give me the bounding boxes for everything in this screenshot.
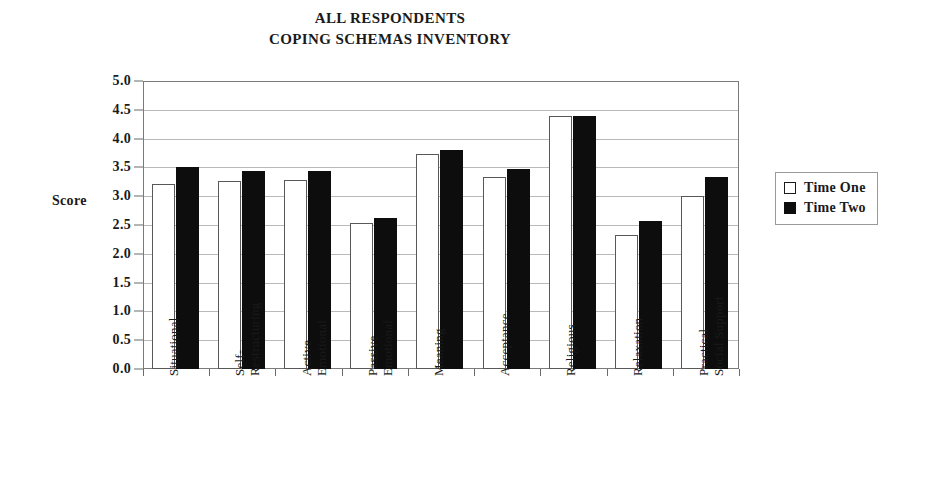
y-axis-tick-label: 2.5 [113,217,131,233]
y-axis-tick-label: 0.5 [113,332,131,348]
x-axis-category-label-line: Social Support [711,296,727,376]
legend-swatch-open-square-icon [784,182,796,194]
y-axis-tick-mark [134,253,143,254]
x-axis-category-label-line: Emotional [314,320,330,376]
x-axis-tick-mark [143,369,144,376]
legend-label-time-one: Time One [804,180,866,196]
y-axis-tick-mark [134,81,143,82]
y-axis-tick-label: 3.5 [113,159,131,175]
y-axis-tick-mark [134,369,143,370]
x-axis-tick-mark [408,369,409,376]
y-axis-tick-labels: 5.04.54.03.53.02.52.01.51.00.50.0 [81,81,143,369]
x-axis-category-label-line: Active [299,340,315,376]
legend-item-time-two[interactable]: Time Two [784,198,866,218]
y-axis-tick-label: 4.5 [113,102,131,118]
x-axis-tick-mark [673,369,674,376]
legend-label-time-two: Time Two [804,200,866,216]
y-axis-tick-label: 4.0 [113,131,131,147]
x-axis-tick-mark [739,369,740,376]
y-axis-tick-mark [134,196,143,197]
x-axis-category-label-line: Passive [365,336,381,376]
y-axis-tick-mark [134,225,143,226]
x-axis-tick-mark [474,369,475,376]
x-axis-category-label-line: Meaning [431,328,447,376]
x-axis-category-label-line: Relaxation [630,318,646,376]
legend-item-time-one[interactable]: Time One [784,178,866,198]
x-axis-tick-mark [209,369,210,376]
y-axis-tick-label: 5.0 [113,73,131,89]
y-axis-tick-label: 2.0 [113,246,131,262]
bar-group [210,82,276,369]
bar-group [409,82,475,369]
bar-time-one[interactable] [218,181,241,369]
y-axis-tick-label: 0.0 [113,361,131,377]
bar-group [276,82,342,369]
x-axis-category-label-line: Situational [166,317,182,376]
y-axis-tick-mark [134,311,143,312]
chart-legend[interactable]: Time One Time Two [775,172,878,225]
bar-group [674,82,740,369]
y-axis-tick-mark [134,340,143,341]
x-axis-category-labels: SituationalSelf-RestructuringActiveEmoti… [143,376,739,488]
y-axis-tick-label: 1.5 [113,275,131,291]
y-axis-tick-label: 3.0 [113,188,131,204]
chart-title: ALL RESPONDENTS COPING SCHEMAS INVENTORY [0,8,780,50]
x-axis-category-label-line: Self- [232,350,248,376]
x-axis-category-label-line: Emotional [380,320,396,376]
x-axis-category-label-line: Religious [563,324,579,376]
x-axis-category-label-line: Acceptance [497,313,513,376]
legend-swatch-filled-square-icon [784,202,796,214]
bars-layer [144,82,738,369]
bar-group [343,82,409,369]
x-axis-tick-mark [607,369,608,376]
chart-title-line-1: ALL RESPONDENTS [0,8,780,29]
x-axis-tick-mark [275,369,276,376]
y-axis-tick-mark [134,282,143,283]
x-axis-tick-mark [342,369,343,376]
x-axis-category-label-line: Restructuring [247,303,263,376]
x-axis-category-label-line: Practical [696,329,712,376]
y-axis-tick-mark [134,109,143,110]
y-axis-tick-label: 1.0 [113,303,131,319]
y-axis-tick-mark [134,138,143,139]
chart-title-line-2: COPING SCHEMAS INVENTORY [0,29,780,50]
x-axis-tick-mark [540,369,541,376]
y-axis-tick-mark [134,167,143,168]
